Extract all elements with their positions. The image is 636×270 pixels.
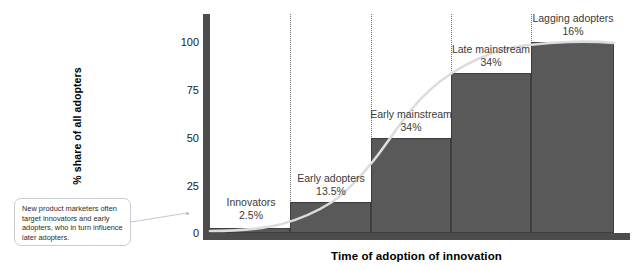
callout-note-text: New product marketers often target innov… (22, 204, 123, 242)
y-axis-line (203, 14, 210, 240)
segment-pct-lagging-adopters: 16% (527, 25, 619, 38)
segment-name-lagging-adopters: Lagging adopters (532, 12, 613, 24)
segment-label-early-mainstream: Early mainstream 34% (366, 108, 456, 134)
x-axis-line (203, 233, 630, 240)
segment-label-late-mainstream: Late mainstream 34% (446, 43, 536, 69)
segment-label-innovators: Innovators 2.5% (216, 196, 286, 222)
y-tick-label-100: 100 (165, 37, 199, 48)
segment-pct-early-adopters: 13.5% (293, 185, 369, 198)
adoption-curve-chart: 100 75 50 25 0 % share of all adopters T… (0, 0, 636, 270)
bar-early-adopters (290, 202, 371, 233)
segment-label-early-adopters: Early adopters 13.5% (293, 172, 369, 198)
y-tick-label-75: 75 (165, 85, 199, 96)
y-axis-title: % share of all adopters (71, 26, 83, 226)
y-tick-label-50: 50 (165, 133, 199, 144)
y-tick-label-25: 25 (165, 181, 199, 192)
segment-name-innovators: Innovators (226, 196, 275, 208)
segment-pct-late-mainstream: 34% (446, 56, 536, 69)
bar-lagging-adopters (531, 42, 614, 233)
bar-late-mainstream (451, 73, 531, 233)
x-axis-title: Time of adoption of innovation (203, 250, 630, 262)
segment-divider-1 (290, 14, 291, 233)
bar-innovators (210, 228, 290, 233)
bar-early-mainstream (371, 138, 451, 233)
segment-name-early-adopters: Early adopters (297, 172, 365, 184)
y-tick-label-0: 0 (165, 228, 199, 239)
segment-name-early-mainstream: Early mainstream (370, 108, 452, 120)
callout-anchor-dot (186, 212, 189, 215)
callout-note: New product marketers often target innov… (14, 198, 131, 246)
segment-label-lagging-adopters: Lagging adopters 16% (527, 12, 619, 38)
segment-name-late-mainstream: Late mainstream (452, 43, 530, 55)
segment-pct-early-mainstream: 34% (366, 121, 456, 134)
segment-pct-innovators: 2.5% (216, 209, 286, 222)
